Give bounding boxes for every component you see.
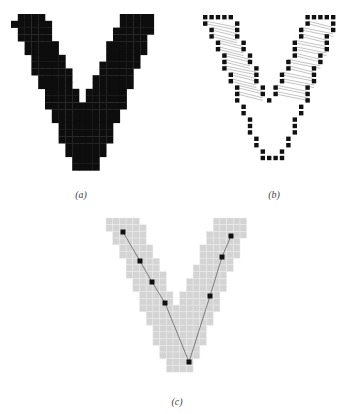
shape-pixel (200, 325, 207, 332)
shape-pixel (113, 68, 120, 75)
shape-pixel (133, 41, 140, 48)
shape-pixel (133, 21, 140, 28)
shape-pixel (127, 34, 134, 41)
shape-pixel (106, 102, 113, 109)
shape-pixel (207, 272, 214, 279)
shape-pixel (227, 265, 234, 272)
shape-pixel (153, 319, 160, 326)
contour-pixel (222, 53, 226, 57)
contour-pixel (229, 15, 233, 19)
shape-pixel (31, 41, 38, 48)
shape-pixel (99, 68, 106, 75)
shape-pixel (106, 89, 113, 96)
shape-pixel (160, 339, 167, 346)
shape-pixel (106, 41, 113, 48)
contour-pixel (216, 15, 220, 19)
shape-pixel (106, 55, 113, 62)
shape-pixel (140, 278, 147, 285)
shape-pixel (233, 218, 240, 225)
shape-pixel (127, 82, 134, 89)
shape-pixel (207, 312, 214, 319)
shape-pixel (106, 68, 113, 75)
shape-pixel (45, 48, 52, 55)
shape-pixel (140, 231, 147, 238)
shape-pixel (220, 278, 227, 285)
shape-pixel (113, 55, 120, 62)
shape-pixel (79, 150, 86, 157)
shape-pixel (120, 41, 127, 48)
shape-pixel (99, 150, 106, 157)
shape-pixel (213, 298, 220, 305)
shape-pixel (120, 89, 127, 96)
shape-pixel (45, 89, 52, 96)
contour-pixel (318, 53, 322, 57)
shape-pixel (72, 130, 79, 137)
shape-pixel (213, 238, 220, 245)
shape-pixel (120, 28, 127, 35)
shape-pixel (146, 292, 153, 299)
shape-pixel (45, 41, 52, 48)
shape-pixel (65, 75, 72, 82)
caption-a: (a) (75, 189, 87, 200)
shape-pixel (173, 365, 180, 372)
caption-c-text: (c) (171, 396, 182, 407)
contour-pixel (248, 60, 252, 64)
contour-pixel (286, 66, 290, 70)
shape-pixel (86, 136, 93, 143)
panel-c-skeleton (106, 218, 247, 372)
shape-pixel (31, 21, 38, 28)
shape-pixel (38, 75, 45, 82)
shape-pixel (166, 352, 173, 359)
shape-pixel (106, 96, 113, 103)
shape-pixel (166, 325, 173, 332)
shape-pixel (166, 339, 173, 346)
shape-pixel (106, 62, 113, 69)
contour-pixel (254, 137, 258, 141)
contour-pixel (318, 15, 322, 19)
contour-pixel (254, 143, 258, 147)
contour-pixel (209, 15, 213, 19)
shape-pixel (72, 150, 79, 157)
shape-pixel (119, 238, 126, 245)
shape-pixel (93, 123, 100, 130)
shape-pixel (220, 231, 227, 238)
contour-pixel (305, 85, 309, 89)
contour-pixel (254, 79, 258, 83)
shape-pixel (106, 48, 113, 55)
chord-line (276, 88, 308, 94)
chord-line (308, 21, 334, 27)
skeleton-keypoint (208, 294, 213, 299)
shape-pixel (186, 312, 193, 319)
shape-pixel (52, 102, 59, 109)
shape-pixel (227, 258, 234, 265)
contour-pixel (293, 130, 297, 134)
shape-pixel (106, 109, 113, 116)
contour-pixel (299, 34, 303, 38)
chord-line (301, 34, 327, 40)
shape-pixel (200, 265, 207, 272)
shape-pixel (106, 136, 113, 143)
shape-pixel (65, 123, 72, 130)
contour-pixel (267, 98, 271, 102)
shape-pixel (45, 82, 52, 89)
contour-pixel (203, 15, 207, 19)
contour-pixel (273, 92, 277, 96)
shape-pixel (207, 252, 214, 259)
shape-pixel (106, 75, 113, 82)
shape-pixel (220, 285, 227, 292)
shape-pixel (127, 62, 134, 69)
chord-line (224, 66, 256, 72)
shape-pixel (99, 102, 106, 109)
shape-pixel (213, 258, 220, 265)
chord-line (308, 24, 334, 30)
contour-pixel (216, 41, 220, 45)
shape-pixel (93, 157, 100, 164)
shape-pixel (200, 339, 207, 346)
shape-pixel (25, 34, 32, 41)
caption-b: (b) (268, 189, 280, 200)
shape-pixel (65, 68, 72, 75)
shape-pixel (59, 55, 66, 62)
shape-pixel (140, 34, 147, 41)
chord-line (288, 59, 320, 65)
contour-pixel (312, 73, 316, 77)
